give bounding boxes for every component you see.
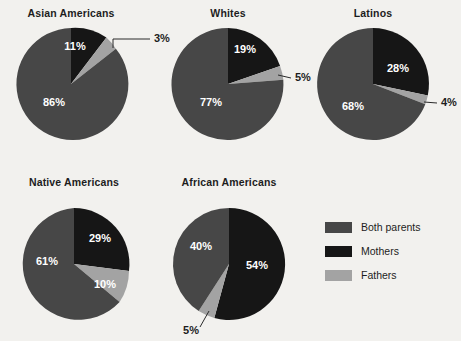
slice-value-mothers: 54% (246, 259, 268, 271)
legend-swatch-mothers (325, 246, 352, 257)
pie-chart-figure: Asian Americans 11% 86% 3% Whites 19% 77… (0, 0, 461, 341)
pie-title: Asian Americans (27, 7, 114, 19)
pie-chart-african-americans: African Americans 54% 40% 5% (173, 176, 285, 336)
legend-label-both-parents: Both parents (361, 221, 421, 233)
pie-slices (171, 28, 283, 140)
pie-slices (173, 208, 285, 320)
legend-item-mothers[interactable]: Mothers (325, 245, 399, 257)
slice-value-mothers: 11% (64, 40, 86, 52)
slice-value-mothers: 19% (234, 43, 256, 55)
legend-swatch-fathers (325, 270, 352, 281)
slice-value-fathers: 4% (441, 96, 457, 108)
legend-item-fathers[interactable]: Fathers (325, 269, 397, 281)
charts-canvas: Asian Americans 11% 86% 3% Whites 19% 77… (0, 0, 461, 341)
pie-chart-latinos: Latinos 28% 68% 4% (317, 7, 457, 140)
pie-slices (317, 28, 429, 140)
slice-value-fathers: 5% (295, 71, 311, 83)
leader-line-fathers (113, 39, 150, 48)
slice-value-both-parents: 40% (190, 240, 212, 252)
pie-title: Native Americans (29, 176, 119, 188)
slice-value-both-parents: 61% (36, 255, 58, 267)
legend-label-fathers: Fathers (361, 269, 397, 281)
legend: Both parents Mothers Fathers (325, 221, 421, 281)
pie-chart-whites: Whites 19% 77% 5% (171, 7, 311, 140)
slice-value-both-parents: 77% (200, 96, 222, 108)
slice-value-mothers: 29% (89, 232, 111, 244)
legend-swatch-both-parents (325, 222, 352, 233)
pie-chart-asian-americans: Asian Americans 11% 86% 3% (16, 7, 170, 140)
slice-value-mothers: 28% (387, 62, 409, 74)
pie-title: Latinos (354, 7, 392, 19)
pie-chart-native-americans: Native Americans 29% 10% 61% (23, 176, 130, 320)
slice-value-fathers: 10% (94, 278, 116, 290)
legend-item-both-parents[interactable]: Both parents (325, 221, 421, 233)
legend-label-mothers: Mothers (361, 245, 399, 257)
pie-title: Whites (210, 7, 245, 19)
leader-line-fathers (424, 102, 437, 103)
slice-value-fathers: 5% (183, 324, 199, 336)
slice-value-both-parents: 86% (43, 96, 65, 108)
slice-value-fathers: 3% (154, 32, 170, 44)
pie-title: African Americans (182, 176, 277, 188)
slice-value-both-parents: 68% (342, 100, 364, 112)
